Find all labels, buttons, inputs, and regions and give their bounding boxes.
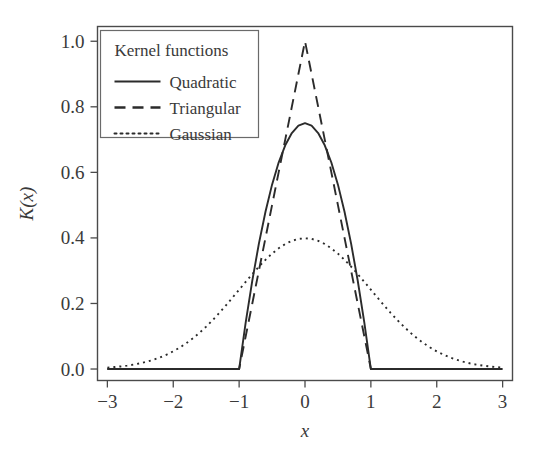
- legend-label-triangular: Triangular: [170, 99, 241, 118]
- kernel-functions-chart: −3−2−10123 0.00.20.40.60.81.0 x K(x) Ker…: [0, 0, 545, 462]
- svg-text:K(x): K(x): [16, 187, 38, 222]
- x-tick-label: 3: [498, 391, 508, 412]
- x-tick-label: 0: [300, 391, 310, 412]
- y-tick-label: 0.6: [61, 162, 85, 183]
- y-tick-label: 1.0: [61, 31, 85, 52]
- x-axis-title: x: [300, 420, 310, 441]
- legend: Kernel functionsQuadraticTriangularGauss…: [101, 31, 259, 144]
- y-tick-label: 0.4: [61, 227, 85, 248]
- y-axis-title: K(x): [16, 187, 38, 222]
- x-tick-label: −3: [97, 391, 117, 412]
- y-tick-label: 0.8: [61, 96, 85, 117]
- legend-label-gaussian: Gaussian: [170, 125, 233, 144]
- x-tick-label: −1: [229, 391, 249, 412]
- x-tick-label: 2: [432, 391, 442, 412]
- y-tick-label: 0.0: [61, 359, 85, 380]
- legend-label-quadratic: Quadratic: [170, 73, 237, 92]
- x-tick-label: 1: [366, 391, 376, 412]
- x-tick-label: −2: [163, 391, 183, 412]
- y-tick-label: 0.2: [61, 293, 85, 314]
- legend-title: Kernel functions: [115, 41, 229, 60]
- chart-canvas: −3−2−10123 0.00.20.40.60.81.0 x K(x) Ker…: [0, 0, 545, 462]
